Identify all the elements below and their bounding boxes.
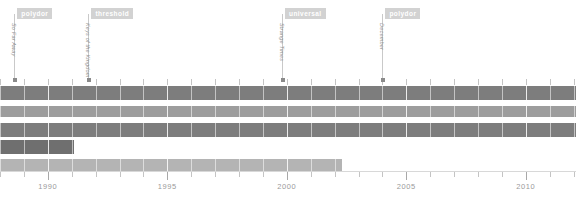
marker-release-title: December <box>379 23 385 50</box>
axis-tick-minor <box>430 172 431 177</box>
axis-tick-top <box>574 79 575 85</box>
gridline <box>454 86 455 171</box>
axis-tick-minor <box>24 172 25 177</box>
gridline <box>287 86 288 171</box>
axis-tick-minor <box>550 172 551 177</box>
axis-tick-top <box>215 79 216 85</box>
axis-tick-minor <box>478 172 479 177</box>
axis-tick-minor <box>72 172 73 177</box>
timeline-bar <box>0 159 342 171</box>
axis-tick-top <box>550 79 551 85</box>
axis-tick-major <box>526 172 527 180</box>
axis-tick-label: 2010 <box>516 182 535 191</box>
gridline <box>359 86 360 171</box>
gridline <box>24 86 25 171</box>
axis-tick-label: 2005 <box>397 182 416 191</box>
axis-tick-top <box>359 79 360 85</box>
axis-tick-label: 1990 <box>38 182 57 191</box>
marker-dot <box>381 78 385 82</box>
axis-tick-top <box>430 79 431 85</box>
gridline <box>574 86 575 171</box>
axis-tick-minor <box>382 172 383 177</box>
axis-tick-top <box>406 79 407 85</box>
axis-tick-top <box>239 79 240 85</box>
axis-tick-minor <box>335 172 336 177</box>
gridline <box>120 86 121 171</box>
gridline <box>143 86 144 171</box>
axis-tick-minor <box>574 172 575 177</box>
gridline <box>167 86 168 171</box>
timeline-chart: 19901995200020052010polydorSo Far Awayth… <box>0 0 576 199</box>
axis-tick-top <box>526 79 527 85</box>
timeline-bar <box>0 86 576 100</box>
marker-dot <box>13 78 17 82</box>
axis-tick-minor <box>191 172 192 177</box>
marker-label-badge[interactable]: threshold <box>91 8 133 19</box>
axis-tick-minor <box>239 172 240 177</box>
gridline <box>72 86 73 171</box>
marker-release-title: Keys of the Kingdom <box>85 23 91 78</box>
axis-tick-minor <box>311 172 312 177</box>
axis-tick-minor <box>502 172 503 177</box>
gridline <box>430 86 431 171</box>
axis-tick-major <box>287 172 288 180</box>
axis-tick-top <box>72 79 73 85</box>
axis-tick-top <box>263 79 264 85</box>
axis-tick-major <box>406 172 407 180</box>
marker-label-badge[interactable]: polydor <box>17 8 52 19</box>
axis-line <box>0 171 576 172</box>
gridline <box>191 86 192 171</box>
gridline <box>478 86 479 171</box>
axis-tick-top <box>287 79 288 85</box>
axis-tick-top <box>335 79 336 85</box>
gridline <box>406 86 407 171</box>
gridline <box>550 86 551 171</box>
gridline <box>263 86 264 171</box>
timeline-bar <box>0 123 576 137</box>
axis-tick-top <box>0 79 1 85</box>
axis-tick-top <box>191 79 192 85</box>
marker-label-badge[interactable]: universal <box>285 8 326 19</box>
gridline <box>96 86 97 171</box>
timeline-bar <box>0 106 576 117</box>
axis-tick-top <box>48 79 49 85</box>
timeline-bar <box>0 140 74 154</box>
axis-tick-top <box>454 79 455 85</box>
axis-tick-minor <box>0 172 1 177</box>
marker-release-title: Strange Times <box>279 23 285 61</box>
axis-tick-top <box>167 79 168 85</box>
axis-tick-minor <box>454 172 455 177</box>
axis-tick-top <box>311 79 312 85</box>
gridline <box>526 86 527 171</box>
axis-tick-top <box>143 79 144 85</box>
axis-tick-top <box>502 79 503 85</box>
gridline <box>0 86 1 171</box>
marker-dot <box>87 78 91 82</box>
axis-tick-top <box>24 79 25 85</box>
axis-tick-top <box>96 79 97 85</box>
gridline <box>335 86 336 171</box>
axis-tick-minor <box>359 172 360 177</box>
gridline <box>311 86 312 171</box>
marker-dot <box>281 78 285 82</box>
axis-tick-label: 1995 <box>158 182 177 191</box>
axis-tick-label: 2000 <box>277 182 296 191</box>
marker-release-title: So Far Away <box>11 23 17 56</box>
axis-tick-major <box>167 172 168 180</box>
marker-label-badge[interactable]: polydor <box>385 8 420 19</box>
axis-tick-minor <box>96 172 97 177</box>
gridline <box>239 86 240 171</box>
axis-tick-top <box>120 79 121 85</box>
axis-tick-major <box>48 172 49 180</box>
axis-tick-minor <box>120 172 121 177</box>
axis-tick-minor <box>263 172 264 177</box>
gridline <box>502 86 503 171</box>
axis-tick-minor <box>143 172 144 177</box>
gridline <box>215 86 216 171</box>
axis-tick-minor <box>215 172 216 177</box>
gridline <box>48 86 49 171</box>
gridline <box>382 86 383 171</box>
axis-tick-top <box>478 79 479 85</box>
